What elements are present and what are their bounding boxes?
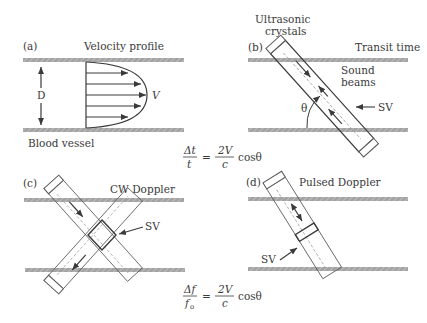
panel-c-cw-doppler: (c) CW Doppler SV bbox=[23, 175, 185, 294]
sv-pointer-icon bbox=[119, 227, 143, 234]
vessel-wall-top bbox=[24, 198, 184, 202]
sound-beams-line1: Sound bbox=[341, 64, 375, 76]
sound-beams-line2: beams bbox=[341, 76, 376, 88]
panel-d-tag: (d) bbox=[246, 176, 261, 188]
crystal-top-icon bbox=[266, 35, 286, 54]
panel-a-tag: (a) bbox=[23, 40, 37, 52]
svg-text:2V: 2V bbox=[217, 144, 234, 156]
panel-b-title: Transit time bbox=[355, 41, 420, 53]
vessel-wall-top bbox=[23, 58, 184, 62]
receive-crystal-icon bbox=[44, 275, 64, 294]
sv-label: SV bbox=[145, 220, 160, 232]
svg-text:c: c bbox=[222, 297, 228, 309]
diameter-label: D bbox=[37, 89, 45, 101]
velocity-label: V bbox=[152, 89, 161, 101]
theta-label: θ bbox=[301, 102, 307, 114]
svg-text:2V: 2V bbox=[217, 283, 234, 295]
panel-b-tag: (b) bbox=[248, 41, 263, 53]
sv-label: SV bbox=[378, 101, 393, 113]
panel-d-title: Pulsed Doppler bbox=[299, 176, 382, 188]
svg-text:Δf: Δf bbox=[183, 283, 198, 295]
crystal-bottom-icon bbox=[359, 138, 379, 157]
sv-label: SV bbox=[261, 253, 276, 265]
sample-volume-gate bbox=[295, 223, 318, 241]
svg-text:c: c bbox=[222, 158, 228, 170]
vessel-wall-top bbox=[248, 58, 408, 62]
svg-text:=: = bbox=[202, 290, 211, 302]
panel-b-transit-time: Ultrasonic crystals (b) Transit time θ S… bbox=[248, 13, 420, 157]
svg-text:o: o bbox=[190, 303, 194, 311]
vessel-wall-bottom bbox=[248, 128, 408, 132]
vessel-wall-bottom bbox=[25, 268, 185, 272]
transit-beam-tube bbox=[266, 35, 379, 157]
panel-c-title: CW Doppler bbox=[110, 183, 176, 195]
crystals-label-line1: Ultrasonic bbox=[255, 13, 311, 25]
bidirectional-arrow-icon bbox=[291, 204, 302, 221]
crystals-label-line2: crystals bbox=[265, 25, 306, 37]
doppler-equation: Δf f o = 2V c cosθ bbox=[183, 283, 262, 311]
svg-text:t: t bbox=[187, 158, 192, 170]
panel-c-tag: (c) bbox=[23, 177, 37, 189]
panel-d-pulsed-doppler: (d) Pulsed Doppler SV bbox=[246, 171, 408, 278]
vessel-wall-bottom bbox=[248, 267, 408, 271]
sv-pointer-icon bbox=[280, 248, 297, 260]
vessel-wall-bottom bbox=[23, 128, 184, 132]
panel-a-velocity-profile: (a) Velocity profile D V Blood vessel bbox=[23, 40, 184, 149]
svg-text:Δt: Δt bbox=[183, 144, 197, 156]
transit-time-equation: Δt t = 2V c cosθ bbox=[183, 144, 262, 170]
panel-a-title: Velocity profile bbox=[83, 40, 164, 52]
blood-vessel-label: Blood vessel bbox=[28, 137, 95, 149]
svg-text:=: = bbox=[202, 151, 211, 163]
crystal-icon bbox=[263, 171, 285, 189]
svg-text:cosθ: cosθ bbox=[238, 151, 262, 163]
velocity-profile-curve bbox=[86, 62, 147, 128]
ultrasound-flow-measurement-diagram: (a) Velocity profile D V Blood vessel Ul… bbox=[0, 0, 427, 323]
svg-text:cosθ: cosθ bbox=[238, 290, 262, 302]
transmit-crystal-icon bbox=[44, 175, 64, 194]
